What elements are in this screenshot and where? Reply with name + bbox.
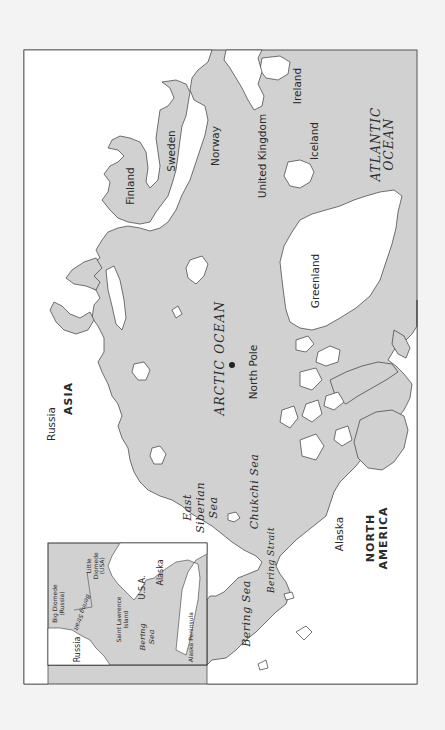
label-iceland: Iceland — [308, 122, 320, 160]
inset-big-diomede-line2: (Russia) — [58, 584, 65, 623]
inset-little-diomede-line3: (USA) — [99, 552, 106, 579]
label-bering-strait: Bering Strait — [266, 527, 276, 593]
inset-bering-sea-line2: Sea — [147, 623, 156, 650]
label-ireland: Ireland — [291, 68, 303, 104]
label-east-siberian-line1: East — [181, 482, 194, 533]
label-russia: Russia — [45, 407, 57, 441]
label-arctic-ocean: ARCTIC OCEAN — [213, 300, 227, 415]
label-north-america: NORTH AMERICA — [364, 506, 390, 569]
label-atlantic-ocean: ATLANTIC OCEAN — [370, 107, 396, 182]
north-pole-marker — [229, 362, 235, 368]
label-east-siberian-line2: Siberian — [194, 482, 207, 533]
inset-label-russia: Russia — [73, 637, 82, 663]
label-north-america-line1: NORTH — [364, 506, 377, 569]
label-east-siberian-sea: East Siberian Sea — [181, 482, 220, 533]
inset-label-saint-lawrence: Saint Lawrence Island — [116, 597, 129, 643]
label-sweden: Sweden — [165, 130, 177, 172]
inset-bering-sea-line1: Bering — [138, 623, 147, 650]
label-atlantic-line2: OCEAN — [383, 107, 396, 182]
label-norway: Norway — [209, 126, 221, 166]
inset-saint-lawrence-line2: Island — [123, 597, 130, 643]
label-east-siberian-line3: Sea — [207, 482, 220, 533]
inset-label-bering-sea: Bering Sea — [138, 623, 156, 650]
label-united-kingdom: United Kingdom — [256, 114, 268, 198]
inset-label-alaska: Alaska — [156, 559, 165, 585]
inset-label-usa: U.S.A. — [138, 576, 147, 600]
label-finland: Finland — [124, 167, 136, 205]
label-chukchi-sea: Chukchi Sea — [248, 454, 261, 530]
label-bering-sea: Bering Sea — [240, 580, 253, 647]
inset-label-alaska-peninsula: Alaska Peninsula — [188, 612, 195, 662]
inset-label-little-diomede: Little Diomede (USA) — [86, 552, 106, 579]
inset-label-big-diomede: Big Diomede (Russia) — [52, 584, 65, 623]
label-asia: ASIA — [62, 382, 75, 415]
label-north-america-line2: AMERICA — [377, 506, 390, 569]
label-greenland: Greenland — [309, 254, 321, 308]
label-north-pole: North Pole — [247, 345, 259, 399]
label-alaska: Alaska — [333, 517, 345, 551]
